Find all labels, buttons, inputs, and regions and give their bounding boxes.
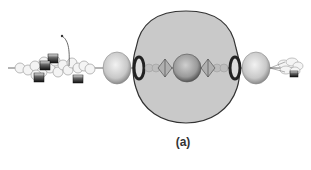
central-sphere bbox=[173, 54, 201, 82]
diagram-figure bbox=[0, 0, 311, 170]
pointer-dot bbox=[61, 35, 63, 37]
figure-caption: (a) bbox=[168, 135, 198, 149]
left-outer-sphere bbox=[103, 52, 131, 84]
right-dark-block bbox=[290, 71, 298, 77]
right-outer-sphere bbox=[242, 52, 270, 84]
right-ring bbox=[230, 57, 240, 79]
left-ring bbox=[134, 57, 144, 79]
